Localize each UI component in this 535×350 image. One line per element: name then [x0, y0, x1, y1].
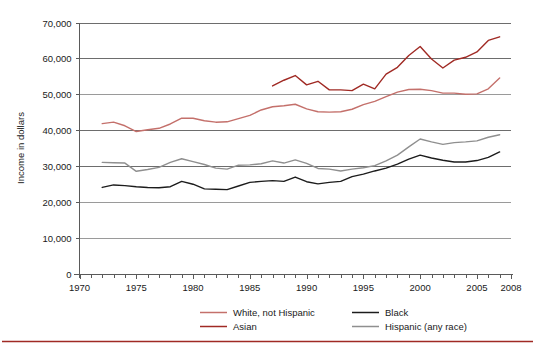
y-axis-title-text: Income in dollars [15, 112, 26, 184]
y-tick-label: 40,000 [42, 125, 71, 136]
income-by-race-line-chart: 010,00020,00030,00040,00050,00060,00070,… [0, 0, 535, 350]
y-tick-label: 60,000 [42, 53, 71, 64]
x-tick-label: 1975 [126, 282, 147, 293]
y-tick-label: 20,000 [42, 197, 71, 208]
x-tick-label: 2005 [466, 282, 487, 293]
series-line-hispanic-any-race [102, 135, 499, 172]
y-tick-label: 0 [66, 269, 71, 280]
x-tick-label: 1990 [296, 282, 317, 293]
x-tick-label: 1995 [353, 282, 374, 293]
x-tick-label: 1980 [182, 282, 203, 293]
legend-label: White, not Hispanic [233, 307, 315, 318]
x-tick-label: 1985 [239, 282, 260, 293]
axes [74, 23, 514, 280]
y-axis-tick-labels: 010,00020,00030,00040,00050,00060,00070,… [42, 18, 71, 280]
series-line-white-not-hispanic [102, 78, 499, 131]
y-tick-label: 70,000 [42, 18, 71, 29]
legend-label: Hispanic (any race) [385, 321, 467, 332]
legend-label: Black [385, 307, 408, 318]
gridlines [80, 24, 512, 239]
legend-label: Asian [233, 321, 257, 332]
series-line-asian [273, 37, 500, 91]
y-axis-title: Income in dollars [15, 112, 26, 184]
x-tick-label: 2008 [500, 282, 521, 293]
y-tick-label: 50,000 [42, 89, 71, 100]
x-axis-tick-labels: 197019751980198519901995200020052008 [69, 282, 522, 293]
x-tick-label: 1970 [69, 282, 90, 293]
x-tick-label: 2000 [410, 282, 431, 293]
series-line-black [102, 152, 499, 190]
y-tick-label: 30,000 [42, 161, 71, 172]
chart-figure: 010,00020,00030,00040,00050,00060,00070,… [0, 0, 535, 350]
y-tick-label: 10,000 [42, 233, 71, 244]
chart-legend: White, not HispanicAsianBlackHispanic (a… [200, 307, 467, 332]
